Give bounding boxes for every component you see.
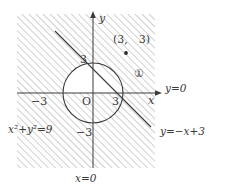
y-axis-equation-label: x=0 — [75, 172, 96, 184]
tick-y-positive-3: 3 — [80, 53, 87, 66]
tick-y-negative-3: −3 — [76, 126, 92, 139]
tick-x-positive-3: 3 — [112, 95, 119, 108]
tick-x-negative-3: −3 — [31, 95, 47, 108]
y-axis-label: y — [99, 12, 105, 25]
circle-equation-label: x²+y²=9 — [8, 123, 53, 135]
point-marker — [124, 51, 128, 55]
origin-label: O — [82, 95, 91, 108]
x-axis-equation-label: y=0 — [165, 82, 186, 94]
line-equation-label: y=−x+3 — [160, 125, 205, 137]
figure-canvas: −3 3 3 −3 O y x y=0 x=0 x²+y²=9 y=−x+3 (… — [0, 0, 227, 192]
region-marker-label: ① — [134, 67, 144, 80]
point-coordinate-label: (3, 3) — [113, 30, 150, 46]
x-axis-label: x — [148, 94, 154, 107]
x-axis-arrow — [155, 90, 162, 96]
